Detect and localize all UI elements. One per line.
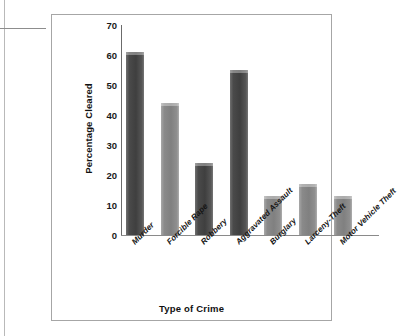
plot-area: 706050403020100 MurderForcible RapeRobbe… bbox=[121, 25, 317, 235]
page-edge-line-horizontal bbox=[0, 28, 46, 29]
bar-robbery bbox=[195, 163, 213, 235]
y-axis-tick-20: 20 bbox=[106, 170, 117, 181]
y-axis-line bbox=[121, 25, 122, 236]
bar-highlight bbox=[334, 196, 352, 199]
y-axis-tick-70: 70 bbox=[106, 20, 117, 31]
page-edge-line-vertical bbox=[4, 0, 5, 336]
y-axis-tick-0: 0 bbox=[112, 230, 117, 241]
bar-highlight bbox=[161, 103, 179, 106]
y-axis-tick-50: 50 bbox=[106, 80, 117, 91]
y-axis-tick-30: 30 bbox=[106, 140, 117, 151]
y-axis-tick-10: 10 bbox=[106, 200, 117, 211]
bar-highlight bbox=[230, 70, 248, 73]
bar-aggravated-assault bbox=[230, 70, 248, 235]
bar-highlight bbox=[299, 184, 317, 187]
chart-figure-frame: Percentage Cleared 706050403020100 Murde… bbox=[51, 14, 332, 321]
y-axis-title: Percentage Cleared bbox=[83, 69, 94, 189]
x-axis-title: Type of Crime bbox=[51, 303, 332, 314]
y-axis-tick-60: 60 bbox=[106, 50, 117, 61]
bar-murder bbox=[126, 52, 144, 235]
bar-highlight bbox=[126, 52, 144, 55]
y-axis-tick-40: 40 bbox=[106, 110, 117, 121]
bar-forcible-rape bbox=[161, 103, 179, 235]
bar-highlight bbox=[195, 163, 213, 166]
